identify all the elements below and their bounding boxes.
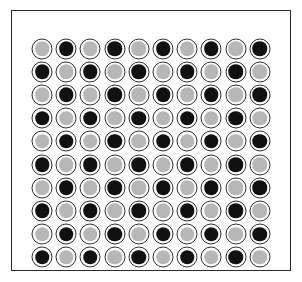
circle-token-fill [180,134,195,149]
circle-token-fill [35,204,50,219]
circle-token-light [249,108,270,129]
circle-token-light [80,131,101,152]
circle-token-fill [253,227,268,242]
circle-token-light [56,61,77,82]
circle-token-fill [59,227,74,242]
grid-cell [103,83,127,106]
circle-token-fill [107,134,122,149]
grid-cell [224,83,248,106]
circle-token-fill [132,227,147,242]
circle-token-fill [180,250,195,265]
circle-token-light [177,84,198,105]
circle-token-fill [156,111,171,126]
circle-token-dark [80,61,101,82]
circle-token-light [249,154,270,175]
circle-token-dark [56,224,77,245]
grid-cell [248,107,272,130]
grid-cell [224,130,248,153]
grid-cell [103,37,127,60]
circle-token-light [32,131,53,152]
circle-token-fill [253,134,268,149]
grid-cell [199,176,223,199]
circle-token-dark [201,177,222,198]
circle-token-dark [201,224,222,245]
circle-token-fill [156,157,171,172]
circle-token-fill [35,88,50,103]
circle-token-fill [156,204,171,219]
circle-token-fill [180,227,195,242]
circle-token-fill [83,111,98,126]
grid-cell [175,199,199,222]
grid-cell [127,107,151,130]
circle-token-dark [80,200,101,221]
circle-token-dark [249,177,270,198]
circle-token-light [177,131,198,152]
circle-token-fill [83,180,98,195]
circle-token-fill [59,111,74,126]
outer-frame [11,10,291,271]
circle-token-dark [104,84,125,105]
grid-cell [151,107,175,130]
circle-token-fill [83,250,98,265]
circle-token-dark [56,84,77,105]
grid-cell [30,246,54,269]
circle-token-dark [56,38,77,59]
circle-token-light [128,131,149,152]
circle-token-light [249,247,270,268]
circle-token-fill [156,180,171,195]
grid-cell [103,153,127,176]
circle-token-fill [253,111,268,126]
circle-token-light [249,61,270,82]
circle-token-fill [228,111,243,126]
circle-token-fill [180,88,195,103]
circle-token-light [225,131,246,152]
circle-token-fill [253,250,268,265]
grid-cell [127,37,151,60]
circle-token-light [201,247,222,268]
grid-cell [103,199,127,222]
circle-token-light [128,224,149,245]
circle-token-fill [253,41,268,56]
circle-token-dark [128,61,149,82]
grid-cell [224,176,248,199]
circle-token-light [56,247,77,268]
circle-token-fill [228,227,243,242]
circle-token-fill [59,204,74,219]
circle-token-light [56,108,77,129]
circle-token-fill [59,134,74,149]
circle-token-light [104,108,125,129]
circle-token-light [104,61,125,82]
grid-cell [175,107,199,130]
grid-cell [103,176,127,199]
circle-token-fill [107,41,122,56]
grid-cell [127,176,151,199]
circle-token-fill [35,134,50,149]
circle-token-fill [132,111,147,126]
circle-token-fill [253,180,268,195]
circle-token-fill [83,134,98,149]
circle-token-fill [228,65,243,80]
circle-token-dark [32,200,53,221]
grid-cell [30,130,54,153]
grid-cell [78,199,102,222]
grid-cell [78,60,102,83]
circle-token-dark [32,108,53,129]
grid-cell [54,130,78,153]
circle-token-light [201,108,222,129]
circle-token-fill [107,88,122,103]
grid-cell [54,153,78,176]
circle-token-fill [156,41,171,56]
circle-token-fill [83,41,98,56]
circle-token-light [153,200,174,221]
circle-token-fill [59,41,74,56]
circle-token-fill [132,204,147,219]
circle-token-light [225,38,246,59]
circle-token-dark [201,84,222,105]
circle-token-fill [228,134,243,149]
circle-token-fill [228,204,243,219]
circle-token-fill [204,227,219,242]
grid-cell [54,37,78,60]
circle-token-fill [180,41,195,56]
circle-token-dark [56,131,77,152]
circle-token-dark [80,154,101,175]
